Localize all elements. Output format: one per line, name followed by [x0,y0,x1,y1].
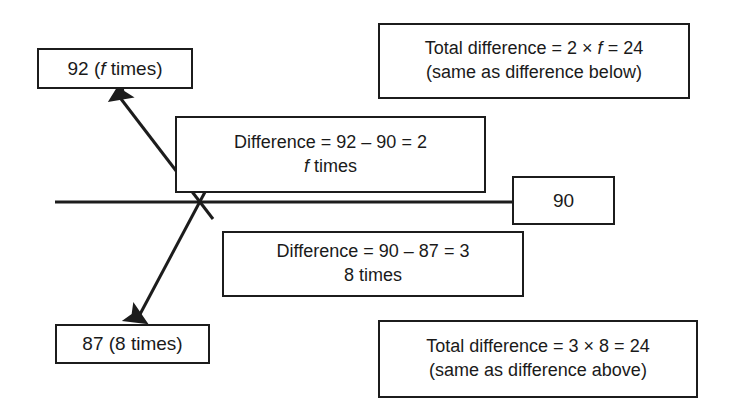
node-low-value-text: 87 (8 times) [82,331,182,356]
annotation-difference-lower-line2: 8 times [344,264,402,288]
annotation-difference-upper: Difference = 92 – 90 = 2 f times [175,116,486,193]
annotation-difference-lower-line1: Difference = 90 – 87 = 3 [277,240,470,264]
annotation-total-difference-top: Total difference = 2 × f = 24 (same as d… [378,23,690,99]
annotation-total-difference-bottom: Total difference = 3 × 8 = 24 (same as d… [378,320,698,398]
annotation-difference-lower: Difference = 90 – 87 = 3 8 times [222,231,524,297]
node-mean-value: 90 [512,176,615,225]
annotation-difference-upper-line2: f times [304,155,357,179]
arrow-to-low-value [138,192,205,318]
annotation-total-bottom-line2: (same as difference above) [429,359,647,383]
node-high-value-suffix: times) [106,58,163,79]
annotation-difference-upper-line1: Difference = 92 – 90 = 2 [234,131,427,155]
annotation-difference-upper-suffix: times [309,156,357,176]
node-high-value-text: 92 (f times) [67,56,162,81]
annotation-total-bottom-line1: Total difference = 3 × 8 = 24 [426,335,649,359]
node-mean-value-text: 90 [553,188,574,213]
node-low-value: 87 (8 times) [55,324,210,364]
node-high-value: 92 (f times) [37,48,193,89]
annotation-total-top-line2: (same as difference below) [426,61,642,85]
annotation-total-top-line1: Total difference = 2 × f = 24 [425,37,643,61]
annotation-total-top-suffix: = 24 [603,38,644,58]
annotation-total-top-prefix: Total difference = 2 × [425,38,598,58]
node-high-value-prefix: 92 ( [67,58,100,79]
diagram-canvas: 92 (f times) Total difference = 2 × f = … [0,0,741,420]
